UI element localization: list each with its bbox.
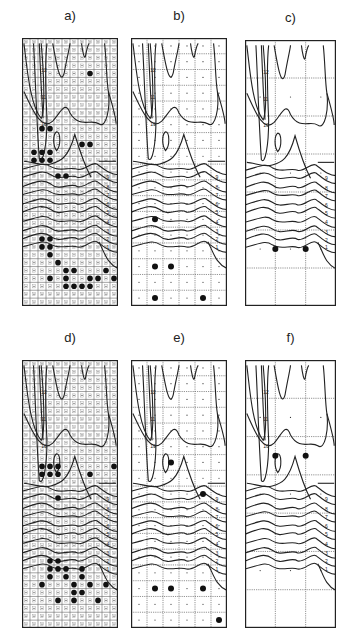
svg-text:2: 2	[106, 236, 109, 242]
svg-text:7: 7	[215, 514, 218, 520]
svg-text:6: 6	[106, 523, 109, 529]
svg-text:11: 11	[41, 416, 46, 422]
panel-label-e: e)	[159, 330, 199, 345]
svg-text:5: 5	[215, 531, 218, 537]
svg-text:9: 9	[325, 175, 328, 181]
svg-text:1: 1	[215, 566, 218, 572]
svg-text:4: 4	[106, 541, 109, 547]
svg-text:7: 7	[215, 192, 218, 198]
svg-text:11: 11	[150, 416, 155, 422]
contour-panel-f: 121110987654321	[245, 360, 336, 628]
svg-text:1: 1	[325, 244, 328, 250]
svg-text:1: 1	[106, 566, 109, 572]
svg-text:3: 3	[215, 550, 218, 556]
contour-panel-a: 121110987654321	[22, 38, 118, 306]
svg-text:10: 10	[263, 443, 269, 449]
svg-text:10: 10	[41, 443, 47, 449]
panel-label-c: c)	[271, 10, 311, 25]
svg-text:5: 5	[325, 210, 328, 216]
svg-text:12: 12	[263, 69, 269, 75]
contour-panel-c: 121110987654321	[245, 40, 336, 306]
svg-text:1: 1	[106, 244, 109, 250]
svg-text:6: 6	[325, 202, 328, 208]
svg-text:9: 9	[106, 174, 109, 180]
svg-text:8: 8	[106, 506, 109, 512]
svg-text:8: 8	[215, 184, 218, 190]
svg-text:4: 4	[325, 541, 328, 547]
svg-text:7: 7	[106, 514, 109, 520]
svg-text:5: 5	[325, 531, 328, 537]
svg-text:6: 6	[106, 201, 109, 207]
svg-text:11: 11	[263, 96, 268, 102]
contour-panel-e: 121110987654321	[131, 360, 227, 628]
svg-text:2: 2	[215, 558, 218, 564]
svg-text:8: 8	[215, 506, 218, 512]
svg-text:2: 2	[106, 558, 109, 564]
svg-text:5: 5	[215, 209, 218, 215]
svg-text:5: 5	[106, 209, 109, 215]
svg-text:12: 12	[150, 67, 156, 73]
svg-text:2: 2	[215, 236, 218, 242]
svg-text:12: 12	[150, 389, 156, 395]
svg-text:4: 4	[215, 541, 218, 547]
svg-text:8: 8	[325, 506, 328, 512]
svg-text:9: 9	[106, 496, 109, 502]
contour-panel-b: 121110987654321	[131, 38, 227, 306]
svg-text:1: 1	[215, 244, 218, 250]
svg-text:3: 3	[106, 228, 109, 234]
svg-text:2: 2	[325, 558, 328, 564]
svg-text:1: 1	[325, 566, 328, 572]
svg-text:6: 6	[325, 523, 328, 529]
svg-text:10: 10	[263, 122, 269, 128]
panel-label-d: d)	[50, 330, 90, 345]
svg-text:5: 5	[106, 531, 109, 537]
svg-text:6: 6	[215, 201, 218, 207]
svg-text:8: 8	[106, 184, 109, 190]
panel-label-b: b)	[159, 8, 199, 23]
svg-text:7: 7	[106, 192, 109, 198]
svg-text:4: 4	[215, 219, 218, 225]
panel-label-a: a)	[50, 8, 90, 23]
svg-text:4: 4	[325, 219, 328, 225]
svg-text:3: 3	[106, 550, 109, 556]
svg-text:3: 3	[325, 229, 328, 235]
svg-text:11: 11	[41, 94, 46, 100]
svg-text:4: 4	[106, 219, 109, 225]
svg-text:9: 9	[325, 496, 328, 502]
svg-text:2: 2	[325, 237, 328, 243]
svg-text:3: 3	[325, 550, 328, 556]
svg-text:10: 10	[150, 121, 156, 127]
svg-text:8: 8	[325, 185, 328, 191]
svg-text:9: 9	[215, 496, 218, 502]
svg-text:12: 12	[263, 389, 269, 395]
svg-text:10: 10	[150, 443, 156, 449]
panel-label-f: f)	[271, 330, 311, 345]
svg-text:12: 12	[41, 389, 47, 395]
svg-text:9: 9	[215, 174, 218, 180]
svg-text:3: 3	[215, 228, 218, 234]
contour-panel-d: 121110987654321	[22, 360, 118, 628]
svg-text:12: 12	[41, 67, 47, 73]
svg-text:6: 6	[215, 523, 218, 529]
svg-text:11: 11	[150, 94, 155, 100]
svg-text:11: 11	[263, 416, 268, 422]
svg-text:7: 7	[325, 514, 328, 520]
svg-text:7: 7	[325, 193, 328, 199]
